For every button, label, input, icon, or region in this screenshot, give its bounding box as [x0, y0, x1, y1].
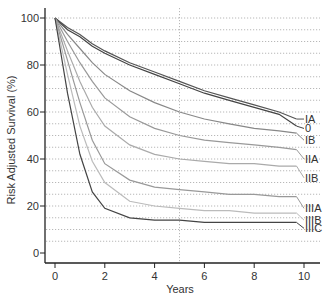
series-label-iiic: IIIC — [305, 222, 322, 234]
y-tick-label: 80 — [27, 59, 39, 71]
x-tick-label: 0 — [52, 270, 58, 282]
x-tick-label: 10 — [298, 270, 310, 282]
y-tick-label: 0 — [33, 247, 39, 259]
series-line-iia — [55, 18, 297, 150]
series-line-iib — [55, 18, 297, 166]
series-label-ib: IB — [305, 134, 315, 146]
series-label-iib: IIB — [305, 172, 318, 184]
y-tick-label: 40 — [27, 153, 39, 165]
grid-lines — [46, 8, 320, 262]
label-leader — [297, 213, 304, 220]
series-line-iiic — [55, 18, 297, 222]
y-ticks: 020406080100 — [21, 12, 45, 259]
series-line-0 — [55, 18, 297, 126]
label-leader — [297, 166, 304, 178]
x-tick-label: 4 — [152, 270, 158, 282]
label-leader — [297, 222, 304, 228]
series-line-ib — [55, 18, 297, 133]
series-label-iia: IIA — [305, 153, 319, 165]
x-tick-label: 8 — [251, 270, 257, 282]
y-tick-label: 60 — [27, 106, 39, 118]
y-tick-label: 20 — [27, 200, 39, 212]
series-labels: IA0IBIIAIIBIIIAIIIBIIIC — [297, 113, 323, 234]
x-tick-label: 6 — [201, 270, 207, 282]
x-ticks: 0246810 — [52, 263, 310, 282]
series-lines — [55, 18, 297, 222]
x-axis-label: Years — [166, 283, 194, 295]
survival-chart: 020406080100 0246810 IA0IBIIAIIBIIIAIIIB… — [0, 0, 325, 297]
series-label-iiia: IIIA — [305, 202, 322, 214]
label-leader — [297, 126, 304, 128]
y-tick-label: 100 — [21, 12, 39, 24]
label-leader — [297, 197, 304, 209]
label-leader — [297, 133, 304, 140]
label-leader — [297, 150, 304, 159]
x-tick-label: 2 — [102, 270, 108, 282]
series-label-0: 0 — [305, 122, 311, 134]
series-line-iiib — [55, 18, 297, 213]
y-axis-label: Risk Adjusted Survival (%) — [5, 76, 17, 205]
